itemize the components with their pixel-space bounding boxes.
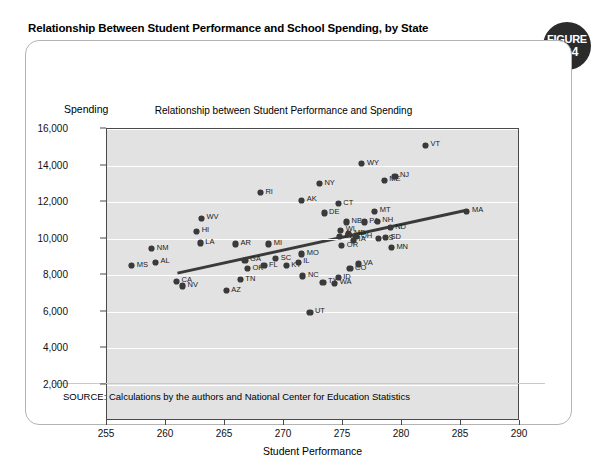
data-point-marker	[383, 235, 388, 240]
data-point-label: AZ	[231, 285, 241, 294]
data-point-label: AL	[160, 256, 169, 265]
x-tick-mark	[283, 420, 284, 425]
data-point-label: NJ	[400, 170, 409, 179]
y-tick-mark	[100, 128, 106, 129]
data-point-label: IL	[303, 256, 309, 265]
data-point-label: LA	[205, 237, 214, 246]
data-point-marker	[245, 266, 250, 271]
x-tick-mark	[401, 420, 402, 425]
data-point-marker	[372, 209, 377, 214]
data-point-label: TN	[245, 274, 255, 283]
y-tick-label: 4,000	[0, 342, 68, 353]
y-tick-mark	[100, 347, 106, 348]
data-point-label: VT	[431, 139, 441, 148]
data-point-marker	[337, 234, 342, 239]
data-point-label: IA	[359, 234, 366, 243]
data-point-marker	[238, 277, 243, 282]
data-point-marker	[198, 240, 203, 245]
data-point-label: UT	[315, 306, 325, 315]
y-tick-label: 2,000	[0, 378, 68, 389]
figure-title: Relationship Between Student Performance…	[28, 22, 428, 34]
data-point-marker	[296, 260, 301, 265]
data-point-label: ID	[343, 272, 351, 281]
x-tick-mark	[165, 420, 166, 425]
figure-panel: Spending Relationship between Student Pe…	[25, 40, 572, 425]
y-tick-label: 8,000	[0, 269, 68, 280]
data-point-marker	[233, 241, 238, 246]
chart-title: Relationship between Student Performance…	[26, 105, 571, 116]
data-point-marker	[382, 178, 387, 183]
data-point-marker	[351, 238, 356, 243]
data-point-marker	[388, 225, 393, 230]
data-point-marker	[317, 181, 322, 186]
data-point-marker	[149, 246, 154, 251]
data-point-marker	[273, 256, 278, 261]
y-tick-label: 6,000	[0, 305, 68, 316]
x-tick-label: 270	[275, 428, 292, 439]
data-point-label: WV	[206, 212, 218, 221]
data-point-marker	[464, 209, 469, 214]
data-point-marker	[336, 201, 341, 206]
data-point-marker	[261, 263, 266, 268]
data-point-label: SD	[390, 232, 400, 241]
x-tick-mark	[224, 420, 225, 425]
data-point-marker	[392, 174, 397, 179]
data-point-marker	[336, 275, 341, 280]
data-point-label: NY	[324, 178, 334, 187]
data-point-marker	[359, 161, 364, 166]
x-tick-mark	[460, 420, 461, 425]
data-point-label: NV	[188, 280, 198, 289]
data-point-label: FL	[269, 260, 278, 269]
y-tick-label: 12,000	[0, 196, 68, 207]
data-point-label: MS	[137, 260, 148, 269]
data-point-marker	[153, 260, 158, 265]
data-point-marker	[332, 281, 337, 286]
data-point-marker	[376, 236, 381, 241]
y-tick-mark	[100, 164, 106, 165]
data-point-label: NH	[382, 215, 393, 224]
data-point-label: MN	[396, 242, 408, 251]
data-point-marker	[129, 263, 134, 268]
y-tick-mark	[100, 201, 106, 202]
data-point-marker	[320, 280, 325, 285]
data-point-marker	[174, 279, 179, 284]
grid-line	[107, 239, 518, 240]
data-point-label: VA	[363, 258, 372, 267]
x-tick-label: 255	[98, 428, 115, 439]
data-point-label: CT	[343, 198, 353, 207]
data-point-marker	[299, 198, 304, 203]
data-point-marker	[356, 261, 361, 266]
x-tick-mark	[342, 420, 343, 425]
x-tick-label: 290	[511, 428, 528, 439]
x-tick-label: 265	[216, 428, 233, 439]
data-point-marker	[375, 219, 380, 224]
grid-line	[107, 385, 518, 386]
y-tick-mark	[100, 274, 106, 275]
data-point-label: WY	[367, 158, 379, 167]
x-tick-label: 280	[393, 428, 410, 439]
data-point-label: NC	[308, 270, 319, 279]
source-note: SOURCE: Calculations by the authors and …	[63, 391, 410, 402]
data-point-marker	[284, 263, 289, 268]
data-point-marker	[266, 241, 271, 246]
data-point-marker	[322, 210, 327, 215]
y-tick-label: 16,000	[0, 123, 68, 134]
data-point-marker	[224, 288, 229, 293]
data-point-label: NB	[352, 216, 362, 225]
data-point-marker	[423, 143, 428, 148]
y-tick-label: 14,000	[0, 159, 68, 170]
y-tick-mark	[100, 383, 106, 384]
x-tick-mark	[106, 420, 107, 425]
data-point-marker	[307, 310, 312, 315]
data-point-label: MT	[380, 205, 391, 214]
data-point-marker	[362, 219, 367, 224]
y-tick-mark	[100, 237, 106, 238]
data-point-marker	[300, 273, 305, 278]
x-axis-label: Student Performance	[106, 445, 519, 455]
data-point-label: MI	[274, 238, 282, 247]
y-tick-label: 10,000	[0, 232, 68, 243]
grid-line	[107, 166, 518, 167]
grid-line	[107, 129, 518, 130]
panel-divider	[52, 383, 545, 384]
grid-line	[107, 348, 518, 349]
